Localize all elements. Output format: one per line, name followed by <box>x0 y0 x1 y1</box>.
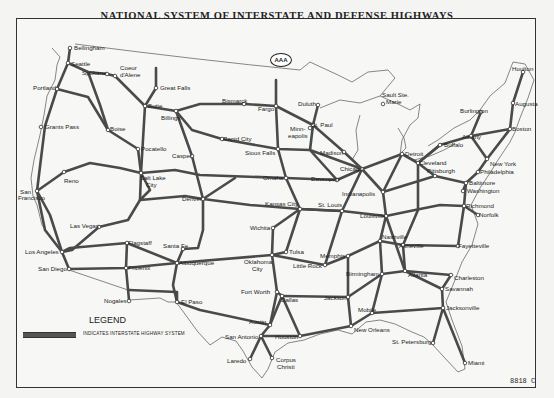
city-marker-icon <box>284 176 288 180</box>
city-label: Phoenix <box>128 264 151 271</box>
city-marker-icon <box>381 102 385 106</box>
city-label: Fort Worth <box>241 288 271 295</box>
borders <box>31 44 534 378</box>
city-marker-icon <box>274 104 278 108</box>
city-marker-icon <box>143 104 147 108</box>
city-label: Tulsa <box>289 248 304 255</box>
city-label: Memphis <box>320 252 345 259</box>
city-label: d'Alene <box>120 71 141 78</box>
city-label: Omaha <box>263 174 284 181</box>
city-label: Nashville <box>382 233 408 240</box>
city-marker-icon <box>175 300 179 304</box>
city-marker-icon <box>268 323 272 327</box>
city-label: Buffalo <box>444 141 464 148</box>
city-marker-icon <box>464 181 468 185</box>
city-label: Butte <box>148 102 163 109</box>
city-marker-icon <box>136 147 140 151</box>
city-label: Duluth <box>298 100 316 107</box>
city-label: Pittsburgh <box>427 167 455 174</box>
city-label: Albany <box>462 133 482 140</box>
city-label: Corpus <box>276 356 296 363</box>
city-label: Coeur <box>120 64 137 71</box>
city-marker-icon <box>270 253 274 257</box>
city-marker-icon <box>340 209 344 213</box>
city-marker-icon <box>35 189 39 193</box>
city-marker-icon <box>270 356 274 360</box>
city-label: Chicago <box>340 165 363 172</box>
city-label: Fayetteville <box>458 242 490 249</box>
city-marker-icon <box>276 147 280 151</box>
city-label: Burlington <box>460 107 488 114</box>
city-marker-icon <box>174 109 178 113</box>
city-label: Fargo <box>258 105 275 112</box>
city-label: New York <box>490 160 517 167</box>
city-label: Santa Fe <box>163 242 189 249</box>
highway-map: BellinghamSeattleSpokaneCoeurd'AlenePort… <box>0 0 554 398</box>
city-label: Austin <box>249 318 267 325</box>
city-label: St. Louis <box>318 201 342 208</box>
city-marker-icon <box>381 190 385 194</box>
city-marker-icon <box>275 290 279 294</box>
city-label: Charleston <box>454 274 484 281</box>
city-label: Madison <box>320 149 344 156</box>
city-label: Christi <box>277 363 295 370</box>
city-label: Salt Lake <box>140 174 166 181</box>
city-label: Denver <box>182 195 202 202</box>
city-label: Jackson <box>324 294 347 301</box>
city-label: Seattle <box>71 60 91 67</box>
city-marker-icon <box>485 157 489 161</box>
city-label: Savannah <box>445 285 473 292</box>
city-marker-icon <box>248 357 252 361</box>
city-marker-icon <box>316 103 320 107</box>
city-marker-icon <box>403 269 407 273</box>
city-label: Washington <box>467 187 500 194</box>
city-label: Richmond <box>466 202 494 209</box>
city-label: Kansas City <box>265 200 299 207</box>
city-marker-icon <box>323 263 327 267</box>
city-label: Laredo <box>227 357 247 364</box>
city-marker-icon <box>400 152 404 156</box>
city-label: Albuquerque <box>179 259 215 266</box>
city-marker-icon <box>380 272 384 276</box>
city-label: St. Paul <box>311 121 333 128</box>
city-marker-icon <box>433 174 437 178</box>
city-label: Oklahoma <box>244 258 273 265</box>
city-label: Francisco <box>18 194 45 201</box>
map-code: 8818 C <box>510 377 535 385</box>
city-label: Mobile <box>358 306 377 313</box>
city-label: Rapid City <box>223 135 252 142</box>
city-label: Billings <box>161 114 181 121</box>
city-label: Atlanta <box>408 271 428 278</box>
city-label: Bismarck <box>222 97 248 104</box>
city-marker-icon <box>259 334 263 338</box>
city-label: eapolis <box>288 132 308 139</box>
city-label: Jacksonville <box>446 304 480 311</box>
city-marker-icon <box>39 125 43 129</box>
city-label: Sioux Falls <box>245 149 275 156</box>
city-label: Norfolk <box>479 211 500 218</box>
city-marker-icon <box>441 306 445 310</box>
city-marker-icon <box>346 254 350 258</box>
city-marker-icon <box>62 170 66 174</box>
city-label: Houlton <box>512 65 534 72</box>
city-label: City <box>146 181 158 188</box>
city-label: Indianapolis <box>342 190 375 197</box>
city-label: El Paso <box>181 298 203 305</box>
city-label: Flagstaff <box>128 239 152 246</box>
city-label: Great Falls <box>160 84 190 91</box>
city-label: Las Vegas <box>70 222 99 229</box>
legend-title: LEGEND <box>89 315 126 325</box>
city-marker-icon <box>440 287 444 291</box>
city-label: Cleveland <box>419 159 447 166</box>
city-label: Baltimore <box>469 179 496 186</box>
city-marker-icon <box>461 189 465 193</box>
city-label: Portland <box>33 84 57 91</box>
city-label: Davenport <box>311 175 340 182</box>
city-marker-icon <box>346 295 350 299</box>
city-label: San Antonio <box>225 333 259 340</box>
city-label: Casper <box>172 152 192 159</box>
city-label: Nogales <box>104 297 127 304</box>
city-marker-icon <box>298 334 302 338</box>
city-marker-icon <box>127 299 131 303</box>
city-label: Miami <box>468 359 485 366</box>
